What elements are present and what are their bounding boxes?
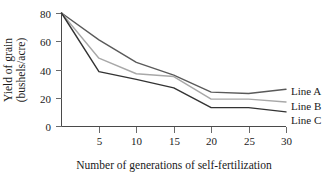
legend: Line ALine BLine C [291,85,321,126]
chart-container: 020406080 51015202530 Number of generati… [0,0,336,174]
y-axis-title-line2: (bushels/acre) [15,38,28,103]
y-axis-title: Yield of grain (bushels/acre) [2,38,28,103]
y-axis-group: 020406080 [40,8,62,133]
x-tick-label: 25 [244,135,256,147]
y-tick-label: 60 [40,36,52,48]
legend-item-line-a: Line A [291,85,321,97]
y-tick-label: 0 [46,121,52,133]
x-tick-label: 10 [131,135,143,147]
y-axis-title-line1: Yield of grain [2,38,15,102]
x-axis-title: Number of generations of self-fertilizat… [76,159,272,172]
x-tick-labels: 51015202530 [97,135,293,147]
y-tick-marks [56,14,62,127]
x-tick-label: 15 [169,135,181,147]
data-series-group [62,13,287,112]
series-line-line-c [62,13,287,112]
x-tick-label: 5 [97,135,103,147]
y-tick-label: 20 [40,93,52,105]
y-tick-label: 40 [40,65,52,77]
x-tick-label: 30 [281,135,293,147]
legend-item-line-c: Line C [291,114,321,126]
y-tick-labels: 020406080 [40,8,52,133]
x-axis-group: 51015202530 [62,127,293,148]
legend-item-line-b: Line B [291,100,321,112]
y-tick-label: 80 [40,8,52,20]
x-tick-label: 20 [206,135,218,147]
line-chart: 020406080 51015202530 Number of generati… [0,0,336,174]
x-tick-marks [100,127,287,133]
